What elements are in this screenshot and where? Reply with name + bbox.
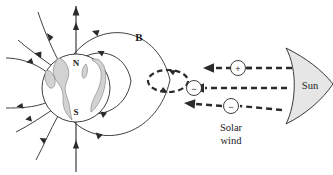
earth: N S [42, 54, 110, 122]
solar-wind-label-line1: Solar [220, 122, 243, 133]
solar-wind-arrowhead-lower [184, 99, 195, 109]
ring-current-arrow-bottom [160, 87, 168, 93]
sun-label: Sun [302, 80, 319, 91]
particle-electron-middle: − [187, 81, 202, 96]
axis-arrow-bottom [73, 140, 79, 149]
solar-wind-label-line2: wind [221, 135, 243, 146]
solar-wind-caption: Solar wind [220, 122, 243, 146]
magnetic-field-label: B [135, 31, 143, 43]
axis-arrow-top [73, 6, 80, 16]
electron-lower-sign: − [228, 102, 233, 112]
solar-wind-arrowhead-upper [203, 63, 214, 73]
electron-middle-sign: − [191, 84, 196, 94]
particle-proton-upper: + [231, 61, 246, 76]
axis-arrow-upper-mid [73, 22, 79, 30]
south-pole-label: S [73, 107, 78, 117]
north-pole-label: N [73, 58, 80, 68]
diagram-canvas: N S B [0, 0, 333, 175]
solar-wind-stream-middle [193, 83, 287, 93]
magnetosphere-diagram: N S B [0, 0, 333, 175]
solar-wind-stream-upper [203, 63, 292, 73]
ring-current-arrow-top [168, 70, 176, 76]
proton-sign: + [235, 64, 240, 74]
sun: Sun [286, 48, 333, 124]
particle-electron-lower: − [224, 99, 239, 114]
